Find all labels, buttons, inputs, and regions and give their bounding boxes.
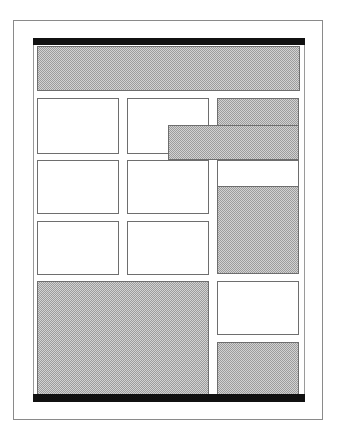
content-box-r2c2	[127, 160, 209, 214]
bottom-right-box	[217, 281, 299, 335]
overlap-block	[168, 125, 299, 160]
content-box-r2c1	[37, 160, 119, 214]
header-block	[37, 46, 300, 91]
content-box-r3c2	[127, 221, 209, 275]
top-bar	[33, 38, 305, 45]
bottom-right-block	[217, 342, 299, 395]
content-box-r3c1	[37, 221, 119, 275]
content-box-r1c1	[37, 98, 119, 154]
sidebar-block-r2-tall	[217, 186, 299, 274]
sidebar-box-r2-top	[217, 160, 299, 187]
bottom-bar	[33, 394, 305, 402]
bottom-left-block	[37, 281, 209, 395]
